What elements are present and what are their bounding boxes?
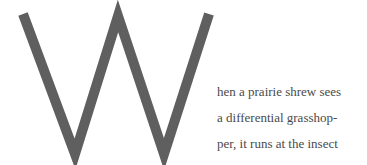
drop-cap-w-glyph (0, 0, 230, 165)
paragraph-line: a differential grasshop- (217, 105, 367, 131)
paragraph-line: hen a prairie shrew sees (217, 79, 367, 105)
paragraph-line: per, it runs at the insect (217, 131, 367, 157)
drop-cap-letter: W (0, 0, 230, 165)
paragraph-text: hen a prairie shrew sees a differential … (217, 79, 367, 157)
